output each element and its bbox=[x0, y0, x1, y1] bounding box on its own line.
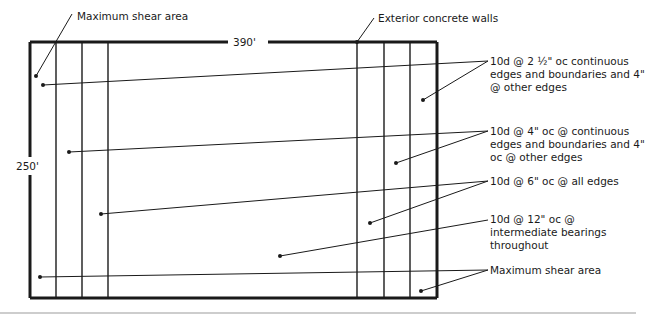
callout-max-shear-top: Maximum shear area bbox=[77, 10, 188, 23]
callout-nailing-2-line3: oc @ other edges bbox=[490, 151, 582, 164]
callout-nailing-4-line2: intermediate bearings bbox=[490, 226, 606, 239]
leader-lines bbox=[36, 14, 488, 291]
callout-nailing-2-line1: 10d @ 4" oc @ continuous bbox=[490, 125, 629, 138]
leader-dots bbox=[34, 40, 425, 293]
callout-exterior-walls: Exterior concrete walls bbox=[378, 12, 498, 25]
callout-nailing-2-line2: edges and boundaries and 4" bbox=[490, 138, 645, 151]
zone-boundaries bbox=[56, 42, 410, 298]
callout-nailing-3: 10d @ 6" oc @ all edges bbox=[490, 175, 619, 188]
callout-nailing-1-line2: edges and boundaries and 4" bbox=[490, 68, 645, 81]
building-outline bbox=[30, 42, 437, 298]
width-dimension-label: 390' bbox=[230, 36, 259, 48]
callout-nailing-4-line3: throughout bbox=[490, 239, 548, 252]
callout-nailing-4-line1: 10d @ 12" oc @ bbox=[490, 213, 575, 226]
callout-max-shear-bottom: Maximum shear area bbox=[490, 264, 601, 277]
height-dimension-label: 250' bbox=[16, 160, 39, 172]
callout-nailing-1-line3: @ other edges bbox=[490, 81, 567, 94]
callout-nailing-1-line1: 10d @ 2 ½" oc continuous bbox=[490, 55, 629, 68]
